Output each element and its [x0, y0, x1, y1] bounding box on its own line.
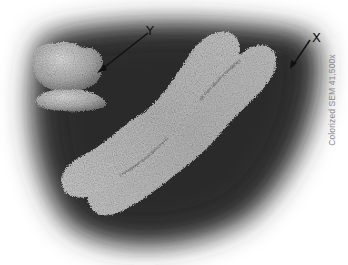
y-chromosome-label: Y [146, 24, 154, 37]
x-chromosome-label: X [312, 31, 321, 44]
micrograph-image [0, 0, 348, 265]
magnification-caption: Colorized SEM 41,500x [327, 54, 337, 145]
y-chromosome [34, 42, 106, 111]
sem-micrograph-figure: Y X Colorized SEM 41,500x [0, 0, 348, 265]
